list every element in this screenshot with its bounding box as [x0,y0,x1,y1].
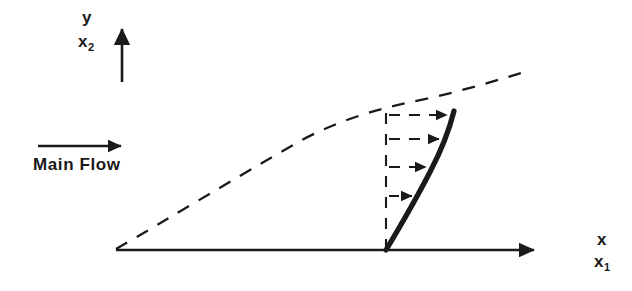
x1-axis-label-subscript: 1 [604,261,611,273]
y-axis-label: y [82,8,92,28]
x-axis-label: x [597,230,607,250]
x2-axis-label-subscript: 2 [88,41,95,53]
boundary-layer-figure: y x2 x x1 Main Flow [0,0,632,291]
x1-axis-label: x1 [594,252,611,273]
boundary-layer-edge-curve [116,73,521,249]
x1-axis-label-base: x [594,252,604,271]
velocity-profile-curve [386,111,454,250]
x2-axis-label: x2 [78,32,95,53]
main-flow-label: Main Flow [33,155,121,175]
figure-canvas [0,0,632,291]
x2-axis-label-base: x [78,32,88,51]
